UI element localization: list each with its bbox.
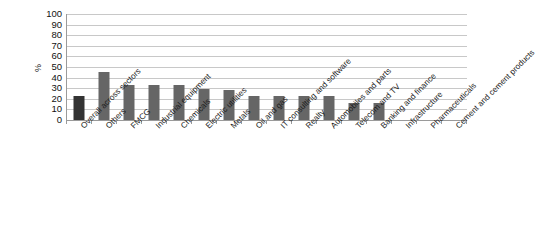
- bar[interactable]: [73, 96, 84, 120]
- bar-slot: [241, 14, 266, 120]
- y-tick-label: 90: [4, 19, 62, 30]
- y-tick-label: 30: [4, 82, 62, 93]
- x-axis-category-labels: Overall across sectorsOthersFMCGIndustri…: [0, 122, 483, 245]
- bar[interactable]: [248, 96, 259, 120]
- y-tick-label: 70: [4, 40, 62, 51]
- y-tick-label: 60: [4, 50, 62, 61]
- y-axis-tick-labels: 1009080706050403020100: [0, 14, 62, 120]
- bar[interactable]: [323, 96, 334, 120]
- y-tick-label: 40: [4, 72, 62, 83]
- y-tick-label: 20: [4, 93, 62, 104]
- y-tick-label: 100: [4, 8, 62, 19]
- y-tick-label: 80: [4, 29, 62, 40]
- bar-slot: [141, 14, 166, 120]
- bar-slot: [66, 14, 91, 120]
- y-tick-label: 10: [4, 103, 62, 114]
- y-tick-label: 50: [4, 61, 62, 72]
